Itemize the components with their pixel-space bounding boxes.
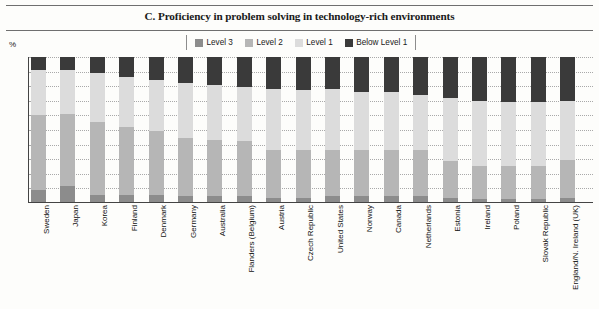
bar-segment xyxy=(384,196,399,202)
bar-segment xyxy=(119,127,134,195)
bar-segment xyxy=(560,101,575,160)
chart-legend: Level 3Level 2Level 1Below Level 1 xyxy=(186,35,416,50)
bar-segment xyxy=(178,196,193,202)
bar-segment xyxy=(354,150,369,196)
bar-segment xyxy=(178,138,193,196)
bar-segment xyxy=(31,115,46,190)
stacked-bar xyxy=(443,57,458,202)
plot-area: 1009080706050403020100 xyxy=(28,57,593,203)
x-axis-label: Ireland xyxy=(483,205,492,305)
stacked-bar xyxy=(119,57,134,202)
bar-segment xyxy=(237,87,252,141)
bar-segment xyxy=(149,195,164,202)
bar-segment xyxy=(149,80,164,131)
bar-segment xyxy=(413,150,428,196)
x-axis-label: Japan xyxy=(71,205,80,305)
bar-segment xyxy=(178,83,193,138)
stacked-bar xyxy=(472,57,487,202)
bar-segment xyxy=(560,160,575,198)
legend-swatch-icon xyxy=(345,39,353,47)
bar-segment xyxy=(501,57,516,102)
stacked-bar xyxy=(354,57,369,202)
stacked-bar xyxy=(31,57,46,202)
bar-segment xyxy=(207,85,222,140)
x-axis-label: Norway xyxy=(365,205,374,305)
bar-segment xyxy=(325,196,340,202)
bar-segment xyxy=(237,141,252,196)
bar-segment xyxy=(266,198,281,202)
bar-segment xyxy=(413,57,428,95)
x-axis-label: Sweden xyxy=(42,205,51,305)
legend-swatch-icon xyxy=(295,39,303,47)
stacked-bar xyxy=(413,57,428,202)
bar-segment xyxy=(119,195,134,202)
stacked-bar xyxy=(237,57,252,202)
bar-segment xyxy=(472,199,487,202)
x-axis-label: Korea xyxy=(100,205,109,305)
x-axis-label: Australia xyxy=(218,205,227,305)
legend-label: Level 3 xyxy=(207,38,233,47)
bar-segment xyxy=(443,57,458,98)
bar-segment xyxy=(354,196,369,202)
x-axis-label: Slovak Republic xyxy=(541,205,550,305)
bar-segment xyxy=(443,98,458,162)
bar-segment xyxy=(501,199,516,202)
bar-segment xyxy=(266,57,281,89)
stacked-bar xyxy=(90,57,105,202)
x-axis-label: Denmark xyxy=(159,205,168,305)
x-axis-label: United States xyxy=(336,205,345,305)
legend-label: Below Level 1 xyxy=(356,38,407,47)
bar-segment xyxy=(90,57,105,73)
bar-segment xyxy=(531,199,546,202)
x-axis-label: Canada xyxy=(394,205,403,305)
legend-swatch-icon xyxy=(245,39,253,47)
bar-segment xyxy=(60,57,75,70)
bar-series-group xyxy=(29,57,593,202)
bar-segment xyxy=(60,114,75,187)
bar-segment xyxy=(296,198,311,202)
stacked-bar xyxy=(560,57,575,202)
x-axis-label: Flanders (Belgium) xyxy=(247,205,256,305)
bar-segment xyxy=(296,57,311,90)
stacked-bar xyxy=(325,57,340,202)
bar-segment xyxy=(178,57,193,83)
stacked-bar xyxy=(501,57,516,202)
bar-segment xyxy=(119,77,134,126)
stacked-bar xyxy=(207,57,222,202)
bar-segment xyxy=(31,57,46,70)
bar-segment xyxy=(207,57,222,85)
legend-item: Below Level 1 xyxy=(345,38,407,47)
bar-segment xyxy=(60,186,75,202)
bar-segment xyxy=(443,198,458,202)
bar-segment xyxy=(472,101,487,166)
bar-segment xyxy=(531,102,546,166)
bar-segment xyxy=(384,57,399,92)
bar-segment xyxy=(325,89,340,150)
x-axis-label: Germany xyxy=(189,205,198,305)
x-axis-label: Czech Republic xyxy=(306,205,315,305)
stacked-bar xyxy=(531,57,546,202)
bar-segment xyxy=(472,166,487,199)
bar-segment xyxy=(413,196,428,202)
legend-item: Level 3 xyxy=(195,38,233,47)
stacked-bar xyxy=(60,57,75,202)
x-axis-label: Austria xyxy=(277,205,286,305)
bar-segment xyxy=(266,89,281,150)
bar-segment xyxy=(207,140,222,197)
legend-swatch-icon xyxy=(195,39,203,47)
bar-segment xyxy=(531,166,546,199)
stacked-bar xyxy=(178,57,193,202)
x-axis-label: England/N. Ireland (UK) xyxy=(571,205,580,305)
x-axis-label: Netherlands xyxy=(424,205,433,305)
x-axis-label: Finland xyxy=(130,205,139,305)
y-axis-unit-label: % xyxy=(9,40,16,49)
chart-title: C. Proficiency in problem solving in tec… xyxy=(0,10,599,22)
stacked-bar xyxy=(266,57,281,202)
bar-segment xyxy=(237,196,252,202)
bar-segment xyxy=(119,57,134,77)
bar-segment xyxy=(31,190,46,202)
bar-segment xyxy=(207,196,222,202)
stacked-bar xyxy=(384,57,399,202)
top-divider-rule xyxy=(6,5,593,6)
legend-item: Level 1 xyxy=(295,38,333,47)
